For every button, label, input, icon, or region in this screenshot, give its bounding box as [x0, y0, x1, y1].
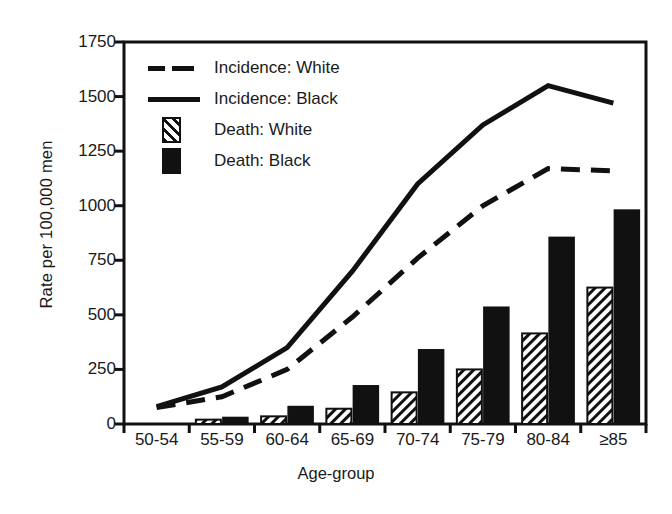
bar-death-black [549, 237, 574, 424]
bar-death-black [614, 210, 639, 424]
chart-figure: Rate per 100,000 men 0250500750100012501… [0, 0, 672, 514]
bar-death-white [457, 369, 482, 424]
bar-death-white [326, 409, 351, 424]
bar-series-group [196, 210, 640, 424]
bar-death-white [261, 416, 286, 424]
bar-death-black [353, 386, 378, 424]
bar-death-white [522, 333, 547, 424]
plot-area [0, 0, 672, 514]
bar-death-white [392, 392, 417, 424]
bar-death-black [484, 307, 509, 424]
bar-death-white [587, 288, 612, 424]
bar-death-white [196, 420, 221, 424]
bar-death-black [288, 407, 313, 424]
bar-death-black [419, 350, 444, 424]
bar-death-black [223, 417, 248, 424]
